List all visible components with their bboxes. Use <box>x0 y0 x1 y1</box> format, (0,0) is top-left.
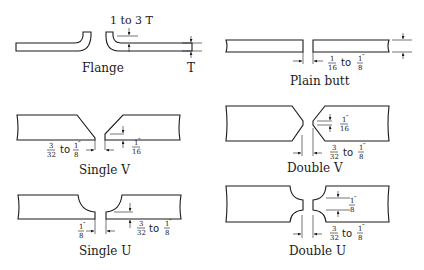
fraction-denominator: 8 <box>359 153 363 161</box>
fraction-denominator: 8 <box>350 206 354 214</box>
inch-mark: ″ <box>138 137 141 145</box>
to-label: to <box>343 147 353 158</box>
inch-mark: ″ <box>363 142 366 150</box>
fraction-denominator: 32 <box>47 151 56 159</box>
inch-mark: ″ <box>362 53 365 61</box>
joint-single-v: 3 32 to 1 ″ 8 1 ″ 16 Single V <box>17 115 180 177</box>
flange-height-label: 1 to 3 T <box>110 14 154 27</box>
inch-mark: ″ <box>362 223 365 231</box>
to-label: to <box>60 144 70 155</box>
plain-butt-right-plate <box>313 40 389 52</box>
fraction-denominator: 8 <box>165 229 169 237</box>
single-u-right-plate <box>106 195 181 219</box>
fraction-denominator: 32 <box>330 234 339 242</box>
fraction-denominator: 32 <box>137 229 146 237</box>
fraction-numerator: 3 <box>332 144 336 152</box>
fraction-denominator: 16 <box>340 125 349 133</box>
plain-butt-left-plate <box>226 40 303 52</box>
joint-double-u: 1 ″ 8 3 32 to 1 ″ 8 Double U <box>226 186 389 258</box>
fraction-numerator: 3 <box>139 220 143 228</box>
inch-mark: ″ <box>169 218 172 226</box>
fraction-denominator: 32 <box>330 153 339 161</box>
flange-label: Flange <box>82 61 124 75</box>
fraction-denominator: 8 <box>74 151 78 159</box>
single-v-left-plate <box>17 115 95 140</box>
thickness-label: T <box>187 61 195 75</box>
single-u-label: Single U <box>79 244 131 258</box>
single-v-label: Single V <box>79 163 130 177</box>
double-v-right-plate <box>313 106 389 141</box>
inch-mark: ″ <box>346 114 349 122</box>
double-u-left-plate <box>226 186 303 222</box>
fraction-numerator: 1 <box>330 55 334 63</box>
double-v-label: Double V <box>287 161 343 175</box>
to-label: to <box>149 223 159 234</box>
fraction-numerator: 3 <box>332 225 336 233</box>
to-label: to <box>341 57 351 68</box>
fraction-denominator: 8 <box>79 232 83 240</box>
joint-flange: 1 to 3 T T Flange <box>16 14 202 75</box>
joint-double-v: 1 ″ 16 3 32 to 1 ″ 8 Double V <box>226 106 389 175</box>
double-u-label: Double U <box>289 244 346 258</box>
fraction-denominator: 16 <box>328 64 337 72</box>
flange-right-plate <box>106 32 192 51</box>
double-v-left-plate <box>226 106 303 141</box>
fraction-denominator: 8 <box>358 64 362 72</box>
single-u-left-plate <box>18 195 95 219</box>
inch-mark: ″ <box>83 221 86 229</box>
plain-butt-label: Plain butt <box>290 74 350 88</box>
inch-mark: ″ <box>354 195 357 203</box>
flange-left-plate <box>16 32 91 51</box>
single-v-right-plate <box>105 115 180 140</box>
fraction-numerator: 3 <box>49 142 53 150</box>
fraction-denominator: 16 <box>132 148 141 156</box>
inch-mark: ″ <box>78 140 81 148</box>
weld-joint-diagram: 1 to 3 T T Flange 1 16 to 1 ″ 8 Plain bu… <box>0 0 424 270</box>
joint-plain-butt: 1 16 to 1 ″ 8 Plain butt <box>226 33 412 88</box>
fraction-denominator: 8 <box>358 234 362 242</box>
to-label: to <box>342 228 352 239</box>
joint-single-u: 1 ″ 8 3 32 to 1 ″ 8 Single U <box>18 195 181 258</box>
